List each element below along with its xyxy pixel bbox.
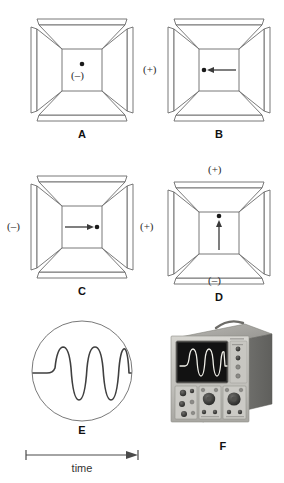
time-axis-label: time	[52, 462, 112, 474]
panel-caption-d: D	[209, 291, 229, 303]
plate-polarity-label-d-bottom: (–)	[208, 274, 221, 286]
plate-polarity-label-c-left: (–)	[7, 220, 20, 232]
panel-caption-c: C	[72, 285, 92, 297]
panel-caption-b: B	[209, 128, 229, 140]
panel-caption-e: E	[72, 424, 92, 436]
oscilloscope-photo	[167, 316, 279, 428]
panel-caption-f: F	[213, 440, 233, 452]
crt-screen-trace	[29, 318, 135, 424]
plate-polarity-label-c-right: (+)	[140, 220, 154, 232]
panel-caption-a: A	[72, 128, 92, 140]
panel-c	[26, 171, 138, 283]
spot-polarity-label-a: (–)	[71, 69, 84, 81]
crt-plates-b	[163, 14, 275, 126]
plate-polarity-label-d-top: (+)	[208, 163, 222, 175]
panel-a: (–)	[26, 14, 138, 126]
time-axis-arrow	[22, 448, 142, 462]
crt-plates-d	[163, 177, 275, 289]
figure-cathode-ray-deflection: (–) A (+) B	[0, 0, 284, 483]
panel-b	[163, 14, 275, 126]
plate-polarity-label-b-left: (+)	[143, 63, 157, 75]
panel-d	[163, 177, 275, 289]
crt-plates-c	[26, 171, 138, 283]
